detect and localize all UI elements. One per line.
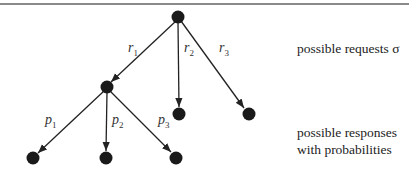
- edge-label-r1: r1: [128, 40, 138, 58]
- edge-r2: [178, 23, 179, 107]
- edge-label-p2: p2: [112, 112, 124, 130]
- caption-responses-line1: possible responses: [297, 124, 397, 141]
- edge-label-p3: p3: [158, 112, 170, 130]
- caption-requests: possible requests σ: [297, 40, 400, 57]
- node-response-1: [27, 152, 40, 165]
- edge-label-r2: r2: [184, 40, 194, 58]
- node-response-3: [170, 152, 183, 165]
- edge-r3: [181, 21, 244, 108]
- node-request-1: [101, 81, 114, 94]
- node-request-3: [243, 108, 256, 121]
- caption-responses: possible responses with probabilities: [297, 124, 397, 158]
- node-response-2: [100, 152, 113, 165]
- edge-r1: [111, 21, 176, 82]
- edge-label-r3: r3: [219, 40, 229, 58]
- faint-mark: [297, 59, 300, 71]
- edge-label-p1: p1: [45, 112, 57, 130]
- edge-p2: [106, 92, 107, 151]
- caption-responses-line2: with probabilities: [297, 141, 397, 158]
- node-root: [172, 11, 185, 24]
- node-request-2: [173, 108, 186, 121]
